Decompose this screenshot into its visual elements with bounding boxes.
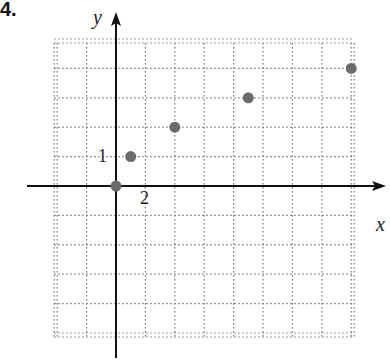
- x-tick-label: 2: [140, 188, 149, 209]
- data-point: [111, 181, 122, 192]
- y-tick-label: 1: [98, 146, 107, 167]
- x-axis-label: x: [376, 213, 385, 236]
- data-point: [169, 122, 180, 133]
- data-point: [125, 151, 136, 162]
- coordinate-plane: [0, 0, 390, 361]
- data-point: [346, 63, 357, 74]
- y-axis-label: y: [93, 6, 102, 29]
- data-point: [243, 92, 254, 103]
